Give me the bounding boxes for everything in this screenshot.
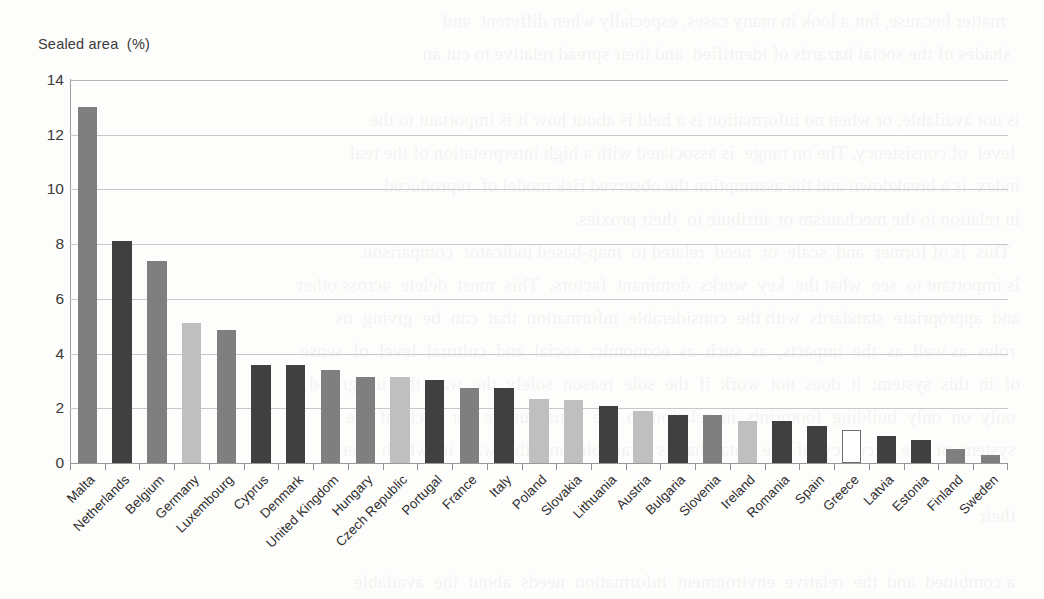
bar-poland[interactable] [529,399,548,463]
bar-slot [799,80,834,463]
bar-greece[interactable] [842,430,861,463]
bar-slot [487,80,522,463]
x-label-slot: Slovakia [556,470,591,595]
bar-slot [452,80,487,463]
x-label-slot: Sweden [973,470,1008,595]
y-tick-label-10: 10 [20,182,64,198]
bar-slot [695,80,730,463]
bar-slot [556,80,591,463]
x-label-slot: Luxembourg [209,470,244,595]
bar-luxembourg[interactable] [217,330,236,463]
bar-slot [105,80,140,463]
bar-slovenia[interactable] [703,415,722,463]
bar-france[interactable] [460,388,479,463]
bar-slot [591,80,626,463]
y-tick-label-12: 12 [20,127,64,143]
bar-slot [626,80,661,463]
bar-ireland[interactable] [738,421,757,463]
bar-netherlands[interactable] [112,241,131,463]
x-label-slot: France [452,470,487,595]
bar-austria[interactable] [633,411,652,463]
bar-italy[interactable] [494,388,513,463]
bar-estonia[interactable] [911,440,930,463]
x-label-slot: Lithuania [591,470,626,595]
y-axis-tick-labels: 02468101214 [20,80,64,463]
x-label-slot: Austria [626,470,661,595]
bar-slovakia[interactable] [564,400,583,463]
bar-latvia[interactable] [877,436,896,463]
bar-slot [938,80,973,463]
bar-united-kingdom[interactable] [321,370,340,463]
x-label-slot: Ireland [730,470,765,595]
bar-slot [174,80,209,463]
bar-slot [70,80,105,463]
bar-series [70,80,1008,463]
x-label-slot: Romania [765,470,800,595]
bar-denmark[interactable] [286,365,305,463]
y-tick-label-8: 8 [20,236,64,252]
bar-slot [313,80,348,463]
y-tick-label-0: 0 [20,455,64,471]
plot-area [70,80,1008,463]
x-label-slot: Poland [522,470,557,595]
y-tick-label-4: 4 [20,346,64,362]
bar-bulgaria[interactable] [668,415,687,463]
x-label-slot: Latvia [869,470,904,595]
bar-slot [730,80,765,463]
x-label-slot: Slovenia [695,470,730,595]
x-label-slot: Portugal [417,470,452,595]
y-tick-label-2: 2 [20,401,64,417]
bar-slot [522,80,557,463]
bar-slot [765,80,800,463]
bar-slot [348,80,383,463]
x-label-slot: Spain [799,470,834,595]
sealed-area-bar-chart: Sealed area (%) 02468101214 MaltaNetherl… [0,0,1044,599]
x-label-slot: Germany [174,470,209,595]
bar-cyprus[interactable] [251,365,270,463]
y-tick-label-6: 6 [20,291,64,307]
bar-slot [973,80,1008,463]
bar-slot [904,80,939,463]
bar-slot [417,80,452,463]
bar-romania[interactable] [772,421,791,463]
bar-hungary[interactable] [356,377,375,463]
bar-malta[interactable] [78,107,97,463]
bar-finland[interactable] [946,449,965,463]
bar-slot [209,80,244,463]
bar-czech-republic[interactable] [390,377,409,463]
x-axis-label-italy: Italy [487,472,515,500]
x-label-slot: Finland [938,470,973,595]
x-label-slot: Netherlands [105,470,140,595]
y-axis-title: Sealed area (%) [38,36,150,52]
y-tick-label-14: 14 [20,72,64,88]
bar-portugal[interactable] [425,380,444,463]
bar-slot [869,80,904,463]
bar-slot [278,80,313,463]
x-label-slot: Greece [834,470,869,595]
bar-belgium[interactable] [147,261,166,463]
bar-sweden[interactable] [981,455,1000,463]
x-label-slot: Estonia [904,470,939,595]
bar-lithuania[interactable] [599,406,618,463]
x-label-slot: Malta [70,470,105,595]
bar-germany[interactable] [182,323,201,463]
bar-spain[interactable] [807,426,826,463]
bar-slot [383,80,418,463]
bar-slot [834,80,869,463]
bar-slot [139,80,174,463]
x-label-slot: Italy [487,470,522,595]
bar-slot [660,80,695,463]
x-label-slot: Czech Republic [383,470,418,595]
x-axis-category-labels: MaltaNetherlandsBelgiumGermanyLuxembourg… [70,470,1008,595]
bar-slot [244,80,279,463]
x-label-slot: Belgium [139,470,174,595]
x-label-slot: Bulgaria [660,470,695,595]
